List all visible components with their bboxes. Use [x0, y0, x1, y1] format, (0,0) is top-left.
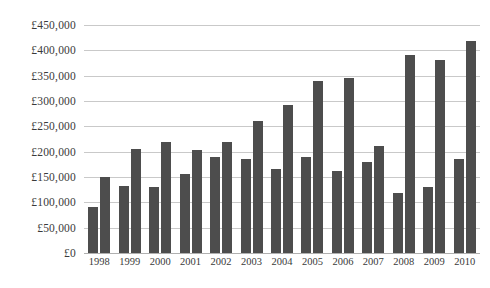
x-axis-tick-label: 2005	[297, 256, 327, 267]
bars-layer	[84, 25, 480, 253]
y-axis-tick-label: £250,000	[31, 120, 76, 132]
bar	[222, 142, 232, 253]
bar	[283, 105, 293, 253]
bar	[423, 187, 433, 253]
x-axis-tick-label: 2001	[175, 256, 205, 267]
bar-group	[149, 25, 171, 253]
bar	[435, 60, 445, 253]
y-axis-tick-label: £150,000	[31, 171, 76, 183]
bar-group	[393, 25, 415, 253]
y-axis-tick-label: £400,000	[31, 44, 76, 56]
bar-group	[180, 25, 202, 253]
x-axis-tick-label: 2010	[450, 256, 480, 267]
y-axis-tick-label: £100,000	[31, 196, 76, 208]
bar	[192, 150, 202, 253]
bar-group	[271, 25, 293, 253]
x-axis-tick-label: 2003	[236, 256, 266, 267]
bar-group	[241, 25, 263, 253]
y-axis-tick-label: £300,000	[31, 95, 76, 107]
y-axis-tick-label: £50,000	[37, 222, 76, 234]
x-axis: 1998199920002001200220032004200520062007…	[84, 256, 480, 280]
x-axis-tick-label: 2000	[145, 256, 175, 267]
bar	[454, 159, 464, 253]
bar	[344, 78, 354, 253]
bar	[119, 186, 129, 253]
bar	[362, 162, 372, 253]
axis-baseline	[84, 253, 480, 254]
bar	[88, 207, 98, 253]
bar	[210, 157, 220, 253]
bar	[180, 174, 190, 253]
bar	[313, 81, 323, 253]
bar-group	[301, 25, 323, 253]
bar	[100, 177, 110, 253]
bar-chart: £0£50,000£100,000£150,000£200,000£250,00…	[0, 0, 490, 288]
x-axis-tick-label: 2008	[389, 256, 419, 267]
x-axis-tick-label: 2006	[328, 256, 358, 267]
x-axis-tick-label: 1999	[114, 256, 144, 267]
x-axis-tick-label: 2002	[206, 256, 236, 267]
y-axis-tick-label: £450,000	[31, 19, 76, 31]
plot-area	[84, 25, 480, 253]
bar-group	[332, 25, 354, 253]
bar	[301, 157, 311, 253]
bar-group	[88, 25, 110, 253]
bar	[149, 187, 159, 253]
bar	[253, 121, 263, 253]
y-axis-tick-label: £200,000	[31, 146, 76, 158]
x-axis-tick-label: 2007	[358, 256, 388, 267]
bar-group	[423, 25, 445, 253]
bar	[271, 169, 281, 253]
bar-group	[454, 25, 476, 253]
bar	[393, 193, 403, 253]
y-axis-tick-label: £0	[64, 247, 76, 259]
x-axis-tick-label: 1998	[84, 256, 114, 267]
bar	[241, 159, 251, 253]
bar	[374, 146, 384, 253]
y-axis-tick-label: £350,000	[31, 70, 76, 82]
bar	[466, 41, 476, 253]
bar-group	[362, 25, 384, 253]
bar	[405, 55, 415, 253]
bar	[161, 142, 171, 253]
y-axis: £0£50,000£100,000£150,000£200,000£250,00…	[0, 0, 82, 288]
bar	[332, 171, 342, 253]
bar-group	[119, 25, 141, 253]
x-axis-tick-label: 2004	[267, 256, 297, 267]
x-axis-tick-label: 2009	[419, 256, 449, 267]
bar-group	[210, 25, 232, 253]
bar	[131, 149, 141, 253]
